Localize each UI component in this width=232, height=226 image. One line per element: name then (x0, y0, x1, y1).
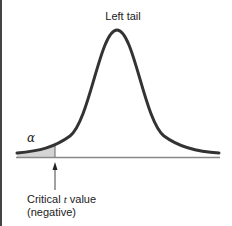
critical-value-label: Critical t value (negative) (27, 193, 96, 219)
critical-label-suffix: value (67, 193, 96, 205)
alpha-label: α (27, 131, 35, 145)
t-distribution-curve (17, 30, 219, 153)
diagram-title: Left tail (0, 10, 232, 22)
critical-label-prefix: Critical (27, 193, 64, 205)
arrow-up-icon (53, 162, 58, 170)
critical-label-negative: (negative) (27, 206, 96, 219)
